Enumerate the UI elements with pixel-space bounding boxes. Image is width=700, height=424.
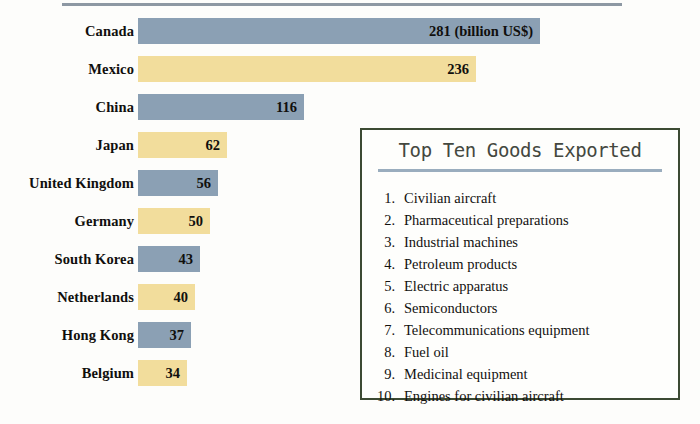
bar: 236	[138, 56, 476, 82]
bar-category-label: Netherlands	[0, 289, 138, 306]
list-item: 9.Medicinal equipment	[362, 364, 678, 385]
bar-value-label: 43	[179, 251, 194, 268]
list-item-number: 10.	[362, 386, 404, 407]
list-item-number: 8.	[362, 342, 404, 363]
list-item-number: 7.	[362, 320, 404, 341]
bar-row: China116	[0, 94, 560, 120]
bar: 62	[138, 132, 227, 158]
bar: 281 (billion US$)	[138, 18, 540, 44]
bar-value-label: 62	[206, 137, 221, 154]
list-item-number: 9.	[362, 364, 404, 385]
bar-track: 116	[138, 94, 560, 120]
list-item: 5.Electric apparatus	[362, 276, 678, 297]
bar-category-label: Germany	[0, 213, 138, 230]
panel-title: Top Ten Goods Exported	[362, 139, 678, 161]
list-item-label: Fuel oil	[404, 342, 449, 363]
list-item-label: Petroleum products	[404, 254, 517, 275]
bar-category-label: China	[0, 99, 138, 116]
bar-category-label: Canada	[0, 23, 138, 40]
bar-value-label: 50	[189, 213, 204, 230]
list-item-label: Industrial machines	[404, 232, 518, 253]
list-item-number: 1.	[362, 188, 404, 209]
bar-value-label: 34	[166, 365, 181, 382]
bar-value-label: 236	[447, 61, 469, 78]
list-item: 4.Petroleum products	[362, 254, 678, 275]
list-item-label: Medicinal equipment	[404, 364, 528, 385]
bar-track: 236	[138, 56, 560, 82]
list-item-label: Pharmaceutical preparations	[404, 210, 569, 231]
bar: 50	[138, 208, 210, 234]
bar-track: 281 (billion US$)	[138, 18, 560, 44]
goods-list: 1.Civilian aircraft2.Pharmaceutical prep…	[362, 188, 678, 407]
list-item-number: 3.	[362, 232, 404, 253]
list-item-label: Electric apparatus	[404, 276, 508, 297]
bar: 116	[138, 94, 304, 120]
list-item: 7.Telecommunications equipment	[362, 320, 678, 341]
bar-category-label: Japan	[0, 137, 138, 154]
bar-row: Canada281 (billion US$)	[0, 18, 560, 44]
list-item-label: Engines for civilian aircraft	[404, 386, 564, 407]
list-item-number: 2.	[362, 210, 404, 231]
bar-value-label: 56	[197, 175, 212, 192]
bar-category-label: South Korea	[0, 251, 138, 268]
list-item-label: Civilian aircraft	[404, 188, 496, 209]
list-item: 2.Pharmaceutical preparations	[362, 210, 678, 231]
bar-category-label: Belgium	[0, 365, 138, 382]
bar-category-label: Mexico	[0, 61, 138, 78]
list-item-label: Telecommunications equipment	[404, 320, 589, 341]
list-item: 3.Industrial machines	[362, 232, 678, 253]
list-item: 8.Fuel oil	[362, 342, 678, 363]
bar: 56	[138, 170, 218, 196]
bar-row: Mexico236	[0, 56, 560, 82]
bar-category-label: Hong Kong	[0, 327, 138, 344]
bar: 37	[138, 322, 191, 348]
bar-value-label: 37	[170, 327, 185, 344]
list-item: 6.Semiconductors	[362, 298, 678, 319]
list-item: 1.Civilian aircraft	[362, 188, 678, 209]
bar-value-label: 40	[174, 289, 189, 306]
panel-divider	[378, 169, 662, 172]
bar: 40	[138, 284, 195, 310]
top-ten-goods-panel: Top Ten Goods Exported 1.Civilian aircra…	[360, 128, 680, 400]
bar-category-label: United Kingdom	[0, 175, 138, 192]
bar: 43	[138, 246, 200, 272]
bar-value-label: 116	[276, 99, 297, 116]
list-item-label: Semiconductors	[404, 298, 497, 319]
infographic-page: Canada281 (billion US$)Mexico236China116…	[0, 0, 700, 424]
list-item-number: 6.	[362, 298, 404, 319]
list-item-number: 4.	[362, 254, 404, 275]
top-rule	[62, 3, 622, 6]
bar-value-label: 281 (billion US$)	[429, 23, 533, 40]
bar: 34	[138, 360, 187, 386]
list-item: 10.Engines for civilian aircraft	[362, 386, 678, 407]
list-item-number: 5.	[362, 276, 404, 297]
